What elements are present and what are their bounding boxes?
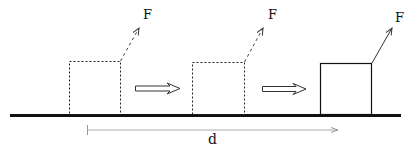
force-arrow-1 [121,28,140,61]
block-initial [70,62,121,115]
displacement-label: d [208,131,217,147]
force-arrow-2 [245,28,264,62]
work-diagram: F F F d [0,0,411,148]
block-final [321,64,372,115]
force-label-3: F [395,10,404,25]
force-label-2: F [268,7,277,22]
motion-arrow-1 [136,83,181,94]
force-arrow-3 [372,28,392,63]
force-label-1: F [143,7,152,22]
motion-arrow-2 [263,84,307,95]
block-intermediate [193,63,245,115]
